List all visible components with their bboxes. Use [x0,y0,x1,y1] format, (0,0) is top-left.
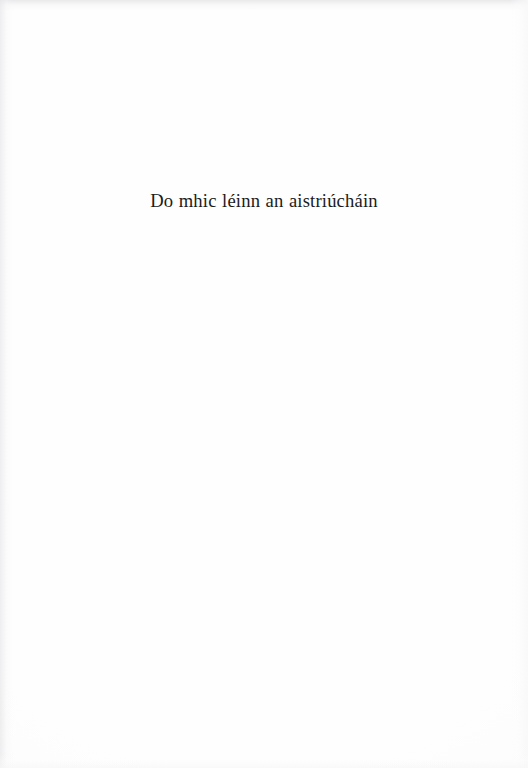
paper-tint-overlay [0,0,528,768]
page-edge-shadow-left [0,0,13,768]
scanned-page: Do mhic léinn an aistriúcháin [0,0,528,768]
page-edge-shadow-right [510,0,528,768]
dedication-block: Do mhic léinn an aistriúcháin [0,189,528,213]
page-edge-shadow-top [0,0,528,11]
dedication-text: Do mhic léinn an aistriúcháin [150,189,378,213]
page-edge-shadow-bottom [0,754,528,768]
